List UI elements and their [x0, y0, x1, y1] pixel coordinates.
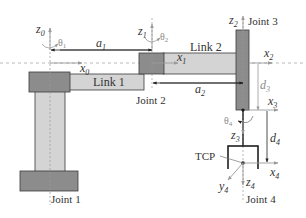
joint-1-hub	[29, 72, 70, 92]
tcp-leader-line	[220, 156, 243, 163]
label-link-2: Link 2	[190, 40, 222, 54]
scara-robot-diagram: z0 θ1 a1 x0 Link 1 Joint 1 z1 θ2 x1 Link…	[0, 0, 306, 218]
label-theta1: θ1	[58, 37, 67, 50]
label-theta2: θ2	[160, 31, 169, 44]
label-x1: x1	[176, 50, 186, 66]
label-d3: d3	[260, 78, 270, 94]
label-tcp: TCP	[195, 150, 215, 162]
label-x3: x3	[267, 94, 277, 110]
label-z3: z3	[230, 128, 240, 144]
label-joint-3: Joint 3	[248, 15, 278, 27]
joint-2-hub	[139, 53, 164, 74]
link-2-bar	[163, 53, 237, 74]
label-link-1: Link 1	[93, 75, 125, 89]
label-x4: x4	[269, 165, 279, 181]
label-y4: y4	[218, 179, 228, 195]
label-a1: a1	[96, 36, 106, 52]
label-joint-4: Joint 4	[246, 193, 276, 205]
joint-1-body	[20, 90, 78, 191]
label-a2: a2	[195, 82, 205, 98]
label-theta4: θ4	[224, 115, 233, 128]
label-x2: x2	[263, 46, 273, 62]
theta2-arc-icon	[145, 38, 160, 42]
joint-3-prismatic-bar	[236, 30, 249, 110]
label-z1: z1	[137, 24, 147, 40]
label-joint-1: Joint 1	[51, 193, 81, 205]
label-joint-2: Joint 2	[136, 94, 166, 106]
theta4-arc-icon	[238, 116, 253, 123]
y4-arrow	[228, 163, 243, 180]
label-z4: z4	[245, 175, 255, 191]
label-x0: x0	[79, 61, 89, 77]
label-d4: d4	[270, 131, 280, 147]
label-z2: z2	[228, 13, 238, 29]
label-z0: z0	[35, 22, 45, 38]
